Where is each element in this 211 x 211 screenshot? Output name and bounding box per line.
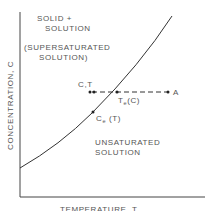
point-a (167, 91, 170, 94)
region-upper-line3: (SUPERSATURATED (24, 43, 111, 52)
y-axis-label: CONCENTRATION, C (6, 61, 15, 150)
region-lower-line2: SOLUTION (95, 148, 141, 157)
point-ce (92, 111, 95, 114)
region-lower-line1: UNSATURATED (95, 138, 160, 147)
point-ct (89, 91, 92, 94)
label-a: A (173, 88, 179, 97)
label-ce: Ce (T) (96, 114, 121, 124)
point-te (115, 90, 118, 93)
label-te: Te(C) (118, 96, 140, 106)
region-upper-line2: SOLUTION (45, 24, 91, 33)
label-ct: C,T (78, 80, 93, 89)
region-upper-line4: SOLUTION) (39, 53, 88, 62)
solubility-diagram: SOLID + SOLUTION (SUPERSATURATED SOLUTIO… (0, 0, 211, 211)
region-upper-line1: SOLID + (37, 14, 72, 23)
x-axis-label: TEMPERATURE, T (60, 205, 137, 211)
point-ct-2 (93, 91, 96, 94)
